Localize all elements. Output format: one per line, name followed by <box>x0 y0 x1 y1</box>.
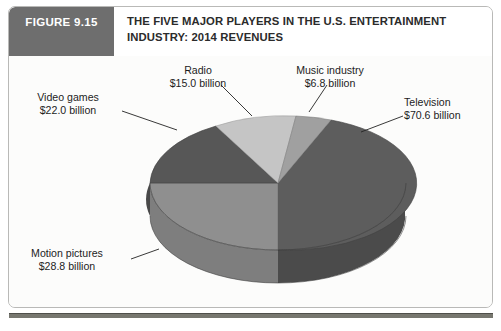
leader-line-television <box>361 116 403 132</box>
callout-music-industry: Music industry $6.8 billion <box>279 64 381 91</box>
callout-video-games-name: Video games <box>16 91 120 104</box>
callout-music-industry-value: $6.8 billion <box>279 77 381 90</box>
callout-motion-pictures-name: Motion pictures <box>6 247 128 260</box>
figure-number-tab: FIGURE 9.15 <box>9 7 114 56</box>
callout-radio-value: $15.0 billion <box>152 77 244 90</box>
callout-motion-pictures-value: $28.8 billion <box>6 260 128 273</box>
side-wall-video-games <box>146 183 150 216</box>
callout-radio: Radio $15.0 billion <box>152 64 244 91</box>
leader-line-video-games <box>122 111 177 130</box>
callout-television-name: Television <box>404 96 498 109</box>
leader-line-motion-pictures <box>131 249 159 259</box>
callout-motion-pictures: Motion pictures $28.8 billion <box>6 247 128 274</box>
callout-music-industry-name: Music industry <box>279 64 381 77</box>
callout-television-value: $70.6 billion <box>404 109 498 122</box>
pie-top-face <box>150 116 417 251</box>
callout-video-games: Video games $22.0 billion <box>16 91 120 118</box>
callout-video-games-value: $22.0 billion <box>16 104 120 117</box>
figure-number-label: FIGURE 9.15 <box>25 16 97 28</box>
figure-title: THE FIVE MAJOR PLAYERS IN THE U.S. ENTER… <box>127 14 485 45</box>
bottom-divider-rule <box>9 313 493 318</box>
callout-radio-name: Radio <box>152 64 244 77</box>
callout-television: Television $70.6 billion <box>404 96 498 123</box>
figure-header: FIGURE 9.15 THE FIVE MAJOR PLAYERS IN TH… <box>9 7 493 57</box>
